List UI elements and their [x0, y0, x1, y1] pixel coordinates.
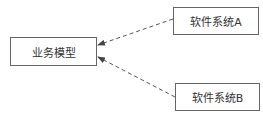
node-software-system-b: 软件系统B: [175, 83, 260, 111]
node-label: 软件系统A: [190, 13, 242, 29]
node-software-system-a: 软件系统A: [173, 7, 259, 35]
node-label: 软件系统B: [192, 89, 244, 105]
edge-b-to-model: [98, 57, 175, 97]
edge-a-to-model: [98, 19, 173, 45]
node-business-model: 业务模型: [10, 37, 97, 66]
node-label: 业务模型: [32, 44, 76, 60]
